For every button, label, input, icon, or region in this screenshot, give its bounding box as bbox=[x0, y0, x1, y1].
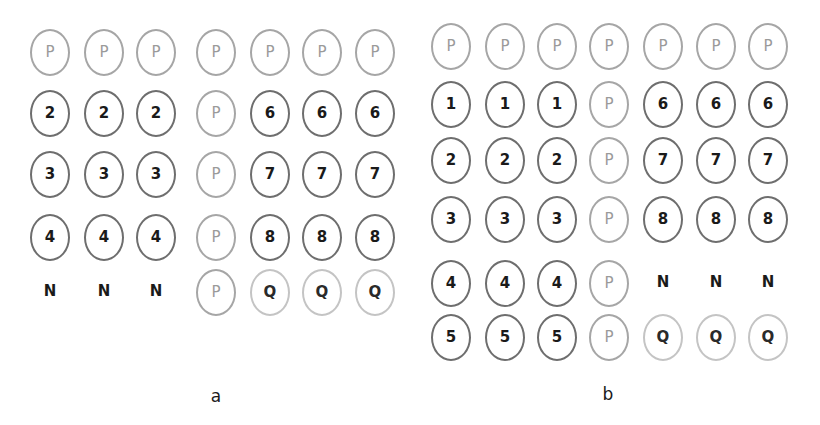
positive-well: P bbox=[748, 23, 788, 70]
sample-well: 5 bbox=[431, 314, 471, 361]
sample-well: 8 bbox=[643, 196, 683, 243]
positive-well: P bbox=[355, 29, 395, 76]
negative-label: N bbox=[643, 273, 683, 291]
sample-well: 8 bbox=[355, 214, 395, 261]
sample-well: 6 bbox=[355, 90, 395, 137]
sample-well: 5 bbox=[485, 314, 525, 361]
sample-well: 4 bbox=[84, 214, 124, 261]
negative-label: N bbox=[748, 273, 788, 291]
positive-well: P bbox=[589, 81, 629, 128]
sample-well: 2 bbox=[84, 90, 124, 137]
positive-well: P bbox=[84, 29, 124, 76]
sample-well: 7 bbox=[250, 151, 290, 198]
sample-well: 8 bbox=[302, 214, 342, 261]
panel-caption: a bbox=[211, 386, 221, 406]
sample-well: 3 bbox=[30, 151, 70, 198]
sample-well: 3 bbox=[537, 196, 577, 243]
sample-well: 4 bbox=[136, 214, 176, 261]
sample-well: 2 bbox=[30, 90, 70, 137]
quality-well: Q bbox=[355, 269, 395, 316]
quality-well: Q bbox=[748, 314, 788, 361]
positive-well: P bbox=[136, 29, 176, 76]
sample-well: 2 bbox=[537, 137, 577, 184]
positive-well: P bbox=[196, 151, 236, 198]
positive-well: P bbox=[696, 23, 736, 70]
positive-well: P bbox=[302, 29, 342, 76]
quality-well: Q bbox=[643, 314, 683, 361]
sample-well: 4 bbox=[30, 214, 70, 261]
sample-well: 8 bbox=[748, 196, 788, 243]
sample-well: 2 bbox=[136, 90, 176, 137]
sample-well: 6 bbox=[643, 81, 683, 128]
negative-label: N bbox=[696, 273, 736, 291]
positive-well: P bbox=[589, 23, 629, 70]
sample-well: 7 bbox=[696, 137, 736, 184]
sample-well: 6 bbox=[302, 90, 342, 137]
sample-well: 6 bbox=[696, 81, 736, 128]
sample-well: 2 bbox=[431, 137, 471, 184]
negative-label: N bbox=[136, 282, 176, 300]
sample-well: 1 bbox=[485, 81, 525, 128]
positive-well: P bbox=[196, 29, 236, 76]
positive-well: P bbox=[589, 260, 629, 307]
negative-label: N bbox=[84, 282, 124, 300]
positive-well: P bbox=[589, 137, 629, 184]
negative-label: N bbox=[30, 282, 70, 300]
sample-well: 1 bbox=[431, 81, 471, 128]
quality-well: Q bbox=[250, 269, 290, 316]
positive-well: P bbox=[196, 90, 236, 137]
sample-well: 5 bbox=[537, 314, 577, 361]
sample-well: 1 bbox=[537, 81, 577, 128]
positive-well: P bbox=[196, 214, 236, 261]
panel-caption: b bbox=[603, 384, 614, 404]
sample-well: 2 bbox=[485, 137, 525, 184]
positive-well: P bbox=[537, 23, 577, 70]
sample-well: 8 bbox=[696, 196, 736, 243]
sample-well: 4 bbox=[485, 260, 525, 307]
sample-well: 7 bbox=[355, 151, 395, 198]
sample-well: 8 bbox=[250, 214, 290, 261]
positive-well: P bbox=[643, 23, 683, 70]
positive-well: P bbox=[250, 29, 290, 76]
sample-well: 4 bbox=[431, 260, 471, 307]
sample-well: 3 bbox=[84, 151, 124, 198]
quality-well: Q bbox=[696, 314, 736, 361]
sample-well: 6 bbox=[250, 90, 290, 137]
positive-well: P bbox=[589, 314, 629, 361]
sample-well: 7 bbox=[748, 137, 788, 184]
positive-well: P bbox=[589, 196, 629, 243]
sample-well: 7 bbox=[302, 151, 342, 198]
sample-well: 7 bbox=[643, 137, 683, 184]
sample-well: 6 bbox=[748, 81, 788, 128]
quality-well: Q bbox=[302, 269, 342, 316]
positive-well: P bbox=[431, 23, 471, 70]
sample-well: 3 bbox=[136, 151, 176, 198]
positive-well: P bbox=[485, 23, 525, 70]
sample-well: 3 bbox=[485, 196, 525, 243]
positive-well: P bbox=[30, 29, 70, 76]
positive-well: P bbox=[196, 269, 236, 316]
sample-well: 3 bbox=[431, 196, 471, 243]
sample-well: 4 bbox=[537, 260, 577, 307]
